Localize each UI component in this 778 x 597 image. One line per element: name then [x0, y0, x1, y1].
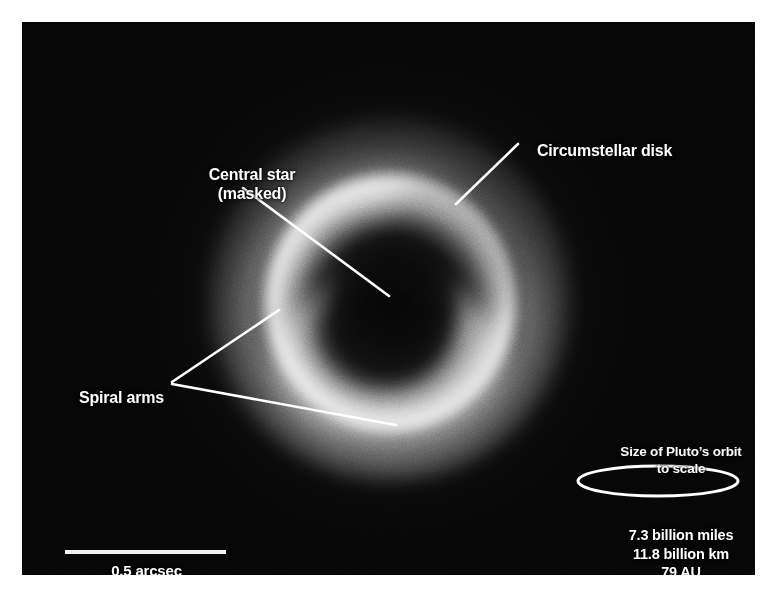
leader-line-spiral-arms-upper — [172, 310, 279, 382]
pluto-measure-au: 79 AU — [661, 564, 701, 575]
leader-line-central-star — [243, 188, 389, 296]
pluto-orbit-title-line2: to scale — [657, 461, 706, 476]
annotation-vector-layer — [22, 22, 755, 575]
scale-bar-caption: 0.5 arcsec — [64, 562, 229, 575]
figure-root: Circumstellar disk Central star (masked)… — [0, 0, 778, 597]
leader-line-circumstellar-disk — [456, 144, 518, 204]
astronomical-image-plate: Circumstellar disk Central star (masked)… — [22, 22, 755, 575]
pluto-orbit-measurements: 7.3 billion miles11.8 billion km79 AU — [596, 526, 755, 575]
pluto-measure-miles: 7.3 billion miles — [629, 527, 734, 543]
pluto-orbit-key-title: Size of Pluto’s orbitto scale — [596, 444, 755, 478]
leader-line-spiral-arms-lower — [172, 384, 396, 425]
label-circumstellar-disk: Circumstellar disk — [537, 142, 672, 161]
scale-bar-rule — [65, 550, 226, 554]
label-central-star: Central star (masked) — [172, 166, 332, 204]
pluto-orbit-title-line1: Size of Pluto’s orbit — [620, 444, 741, 459]
label-spiral-arms: Spiral arms — [79, 389, 164, 408]
pluto-measure-km: 11.8 billion km — [633, 546, 729, 562]
